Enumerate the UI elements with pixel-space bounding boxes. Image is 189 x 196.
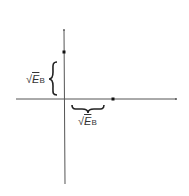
- point-vertical: [63, 51, 66, 54]
- vertical-distance-label: √EB: [26, 73, 45, 85]
- bottom-brace-icon: [72, 105, 104, 113]
- axis-end-dot-top: [63, 29, 65, 31]
- axis-end-dot-right: [175, 98, 177, 100]
- horizontal-distance-label: √EB: [78, 115, 97, 127]
- diagram-canvas: [0, 0, 189, 196]
- subscript: B: [39, 76, 44, 85]
- left-brace-icon: [49, 62, 57, 95]
- point-horizontal: [112, 98, 115, 101]
- subscript: B: [91, 118, 96, 127]
